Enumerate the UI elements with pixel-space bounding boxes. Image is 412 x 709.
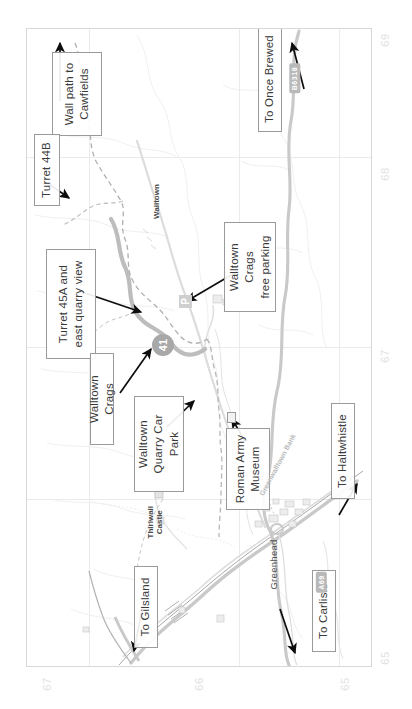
grid-reference-right-69: 69: [379, 33, 391, 46]
grid-reference-left-67: 67: [41, 677, 53, 690]
road-badge-a69: A69: [316, 572, 327, 593]
roman-army-museum-building: [227, 412, 236, 423]
grid-reference-left-66: 66: [193, 677, 205, 690]
road-badge-b6318: B6318: [289, 64, 300, 94]
parking-icon: P: [179, 295, 192, 308]
place-label-thirlwall-castle: Thirlwall Castle: [146, 504, 164, 540]
callout-to-haltwhistle[interactable]: To Haltwhistle: [331, 403, 355, 499]
callout-walltown-quarry-car-park[interactable]: Walltown Quarry Car Park: [134, 396, 184, 492]
arrow-walltown-crags: [120, 349, 151, 393]
grid-reference-left-65: 65: [339, 677, 351, 690]
place-label-walltown: Walltown: [152, 182, 161, 222]
map-page: P 41 Wall path to Cawfields Turret 44B T…: [0, 0, 412, 709]
grid-reference-right-67: 67: [379, 349, 391, 362]
arrow-to-carlisle: [280, 609, 295, 653]
callout-turret-44b[interactable]: Turret 44B: [34, 134, 60, 206]
callout-to-once-brewed[interactable]: To Once Brewed: [258, 28, 282, 132]
map-canvas[interactable]: P 41 Wall path to Cawfields Turret 44B T…: [26, 28, 372, 667]
callout-walltown-crags-free-parking[interactable]: Walltown Crags free parking: [224, 222, 276, 312]
callout-to-gilsland[interactable]: To Gilsland: [134, 566, 158, 648]
callout-turret-45a-east-quarry-view[interactable]: Turret 45A and east quarry view: [46, 249, 96, 359]
callout-walltown-crags[interactable]: Walltown Crags: [90, 353, 114, 445]
trail-marker-41: 41: [152, 334, 174, 356]
place-label-greenhead: Greenhead: [269, 533, 280, 595]
grid-reference-right-68: 68: [379, 167, 391, 180]
callout-wall-path-to-cawfields[interactable]: Wall path to Cawfields: [52, 52, 102, 136]
grid-reference-right-65: 65: [379, 651, 391, 664]
